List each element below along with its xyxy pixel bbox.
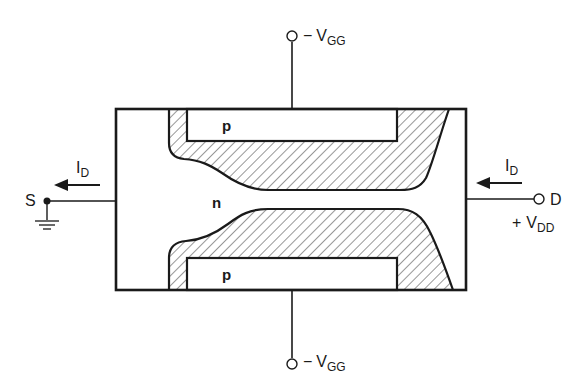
source-current-label: ID [76,159,89,180]
source-label: S [25,192,36,209]
drain-current-label: ID [505,157,518,178]
gate-terminal-bottom[interactable] [287,359,297,369]
arrow-left-icon [54,179,100,191]
n-channel-label: n [212,194,221,211]
arrow-left-icon [476,177,522,189]
jfet-diagram: p p n −VGG −VGG S ID D +VDD ID [0,0,583,392]
ground-icon [35,221,59,229]
drain-label: D [550,191,562,208]
gate-top-label: −VGG [303,27,346,48]
p-gate-top [187,109,397,141]
p-label-bottom: p [222,266,231,283]
gate-bottom-label: −VGG [303,353,346,374]
drain-terminal[interactable] [534,194,544,204]
drain-supply-label: +VDD [512,214,555,235]
p-gate-bottom [187,258,397,290]
gate-terminal-top[interactable] [287,31,297,41]
p-label-top: p [222,117,231,134]
